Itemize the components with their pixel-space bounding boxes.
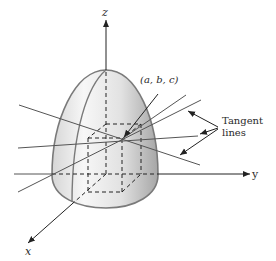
z-axis-label: z xyxy=(101,6,108,19)
x-axis-label: x xyxy=(25,245,32,258)
x-axis xyxy=(28,204,72,243)
y-axis-label: y xyxy=(251,168,259,181)
callout-label-line1: Tangent xyxy=(222,115,263,126)
callout-arrows xyxy=(180,111,218,155)
callout-label-line2: lines xyxy=(222,127,246,138)
point-label: (a, b, c) xyxy=(140,74,179,85)
paraboloid-diagram: z y x (a, b, c) Tangent lines xyxy=(0,0,276,261)
paraboloid-surface xyxy=(52,70,158,208)
